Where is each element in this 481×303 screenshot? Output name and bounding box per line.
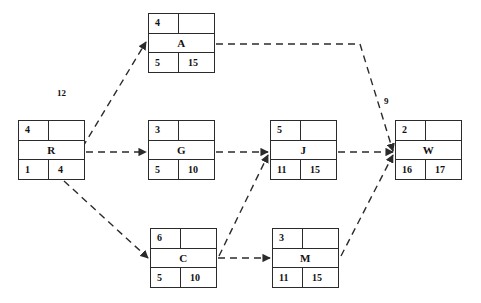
edge-R-to-C	[64, 181, 148, 258]
node-M-early-finish: 15	[303, 268, 338, 287]
node-J[interactable]: 5 J 11 15	[270, 120, 337, 180]
node-A-bottom-row: 5 15	[149, 52, 214, 72]
node-G-label: G	[149, 141, 214, 160]
node-R[interactable]: 4 R 1 4	[18, 120, 85, 180]
edge-label-A-to-W: 9	[384, 96, 389, 106]
node-R-label: R	[19, 141, 84, 160]
node-M[interactable]: 3 M 11 15	[272, 228, 339, 288]
edge-C-to-J	[219, 155, 268, 256]
node-R-early-start: 1	[19, 160, 49, 179]
node-G-top-right	[179, 121, 214, 140]
node-M-early-start: 11	[273, 268, 303, 287]
network-diagram-canvas: 4 R 1 4 4 A 5 15 3 G	[0, 0, 481, 303]
node-C-early-finish: 10	[181, 268, 216, 287]
node-M-name-row: M	[273, 249, 338, 268]
node-A-top-right	[179, 14, 214, 33]
node-C-label: C	[151, 249, 216, 268]
node-R-top-row: 4	[19, 121, 84, 141]
node-A-top-row: 4	[149, 14, 214, 34]
node-C-bottom-row: 5 10	[151, 267, 216, 287]
node-G-duration: 3	[149, 121, 179, 140]
node-W-duration: 2	[396, 121, 426, 140]
node-W-early-finish: 17	[426, 160, 461, 179]
node-W-top-row: 2	[396, 121, 461, 141]
node-G[interactable]: 3 G 5 10	[148, 120, 215, 180]
node-J-duration: 5	[271, 121, 301, 140]
node-J-name-row: J	[271, 141, 336, 160]
node-G-bottom-row: 5 10	[149, 159, 214, 179]
node-G-early-finish: 10	[179, 160, 214, 179]
node-J-early-start: 11	[271, 160, 301, 179]
node-G-name-row: G	[149, 141, 214, 160]
node-W-name-row: W	[396, 141, 461, 160]
node-W-label: W	[396, 141, 461, 160]
node-M-top-right	[303, 229, 338, 248]
node-A-early-start: 5	[149, 53, 179, 72]
node-C[interactable]: 6 C 5 10	[150, 228, 217, 288]
node-C-duration: 6	[151, 229, 181, 248]
edge-M-to-W	[341, 155, 393, 256]
node-J-top-right	[301, 121, 336, 140]
node-J-label: J	[271, 141, 336, 160]
node-A-label: A	[149, 34, 214, 53]
node-J-top-row: 5	[271, 121, 336, 141]
node-R-top-right	[49, 121, 84, 140]
node-M-label: M	[273, 249, 338, 268]
node-C-early-start: 5	[151, 268, 181, 287]
node-G-top-row: 3	[149, 121, 214, 141]
node-R-early-finish: 4	[49, 160, 84, 179]
node-W-early-start: 16	[396, 160, 426, 179]
node-R-duration: 4	[19, 121, 49, 140]
node-W-top-right	[426, 121, 461, 140]
node-G-early-start: 5	[149, 160, 179, 179]
node-M-duration: 3	[273, 229, 303, 248]
node-A-name-row: A	[149, 34, 214, 53]
node-R-name-row: R	[19, 141, 84, 160]
node-R-bottom-row: 1 4	[19, 159, 84, 179]
node-W-bottom-row: 16 17	[396, 159, 461, 179]
node-J-early-finish: 15	[301, 160, 336, 179]
node-C-top-row: 6	[151, 229, 216, 249]
node-A-early-finish: 15	[179, 53, 214, 72]
node-W[interactable]: 2 W 16 17	[395, 120, 462, 180]
node-M-bottom-row: 11 15	[273, 267, 338, 287]
node-C-top-right	[181, 229, 216, 248]
node-C-name-row: C	[151, 249, 216, 268]
node-A[interactable]: 4 A 5 15	[148, 13, 215, 73]
node-A-duration: 4	[149, 14, 179, 33]
node-M-top-row: 3	[273, 229, 338, 249]
edge-label-R-to-A: 12	[57, 88, 66, 98]
node-J-bottom-row: 11 15	[271, 159, 336, 179]
